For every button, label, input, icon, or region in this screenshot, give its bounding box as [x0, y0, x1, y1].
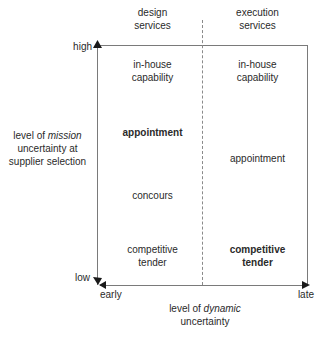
header-line: services — [110, 19, 195, 32]
x-axis-title-italic: dynamic — [204, 303, 241, 314]
design-cell-concours: concours — [105, 189, 200, 202]
header-line: services — [215, 19, 300, 32]
cell-line: capability — [210, 71, 305, 84]
x-axis-title-line2: uncertainty — [150, 315, 260, 328]
x-axis-line — [100, 285, 305, 286]
x-axis-early-label: early — [100, 288, 130, 301]
header-line: execution — [215, 6, 300, 19]
y-axis-line — [97, 47, 98, 285]
column-header-execution: execution services — [215, 6, 300, 32]
execution-cell-in-house: in-house capability — [210, 58, 305, 84]
cell-line: tender — [210, 256, 305, 269]
y-axis-title-line2: uncertainty at — [0, 142, 95, 155]
design-cell-appointment: appointment — [105, 126, 200, 139]
y-axis-title-line3: supplier selection — [0, 155, 95, 168]
y-axis-low-label: low — [62, 271, 90, 284]
execution-cell-appointment: appointment — [210, 152, 305, 165]
cell-line: competitive — [210, 243, 305, 256]
execution-cell-competitive-tender: competitive tender — [210, 243, 305, 269]
header-line: design — [110, 6, 195, 19]
cell-line: in-house — [105, 58, 200, 71]
top-border — [99, 45, 307, 46]
x-axis-title-prefix: level of — [169, 303, 203, 314]
y-axis-title-line1: level of mission — [0, 129, 95, 142]
y-axis-title-prefix: level of — [13, 130, 47, 141]
y-axis-title: level of mission uncertainty at supplier… — [0, 129, 95, 168]
y-axis-high-label: high — [62, 40, 92, 53]
x-axis-title-line1: level of dynamic — [150, 302, 260, 315]
cell-line: in-house — [210, 58, 305, 71]
y-axis-title-italic: mission — [48, 130, 82, 141]
x-axis-title: level of dynamic uncertainty — [150, 302, 260, 328]
design-cell-in-house: in-house capability — [105, 58, 200, 84]
column-divider — [202, 20, 203, 285]
cell-line: tender — [105, 256, 200, 269]
cell-line: capability — [105, 71, 200, 84]
arrow-up-icon — [93, 40, 102, 49]
x-axis-late-label: late — [284, 288, 314, 301]
design-cell-competitive-tender: competitive tender — [105, 243, 200, 269]
right-border — [307, 45, 308, 285]
column-header-design: design services — [110, 6, 195, 32]
cell-line: competitive — [105, 243, 200, 256]
